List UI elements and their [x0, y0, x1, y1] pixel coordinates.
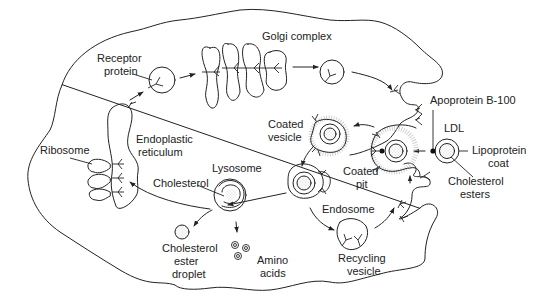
recycling-vesicle	[337, 219, 368, 250]
label-receptor-protein: Receptor protein	[97, 52, 145, 77]
label-amino-acids: Amino acids	[257, 254, 291, 279]
amino-acids	[232, 242, 250, 260]
label-cholesterol: Cholesterol	[153, 177, 209, 189]
ldl-particle	[430, 139, 473, 177]
secretory-vesicle	[320, 60, 344, 84]
label-cholesterol-esters: Cholesterol esters	[448, 175, 507, 200]
label-endoplastic-reticulum: Endoplastic reticulum	[136, 133, 196, 158]
receptor-protein-vesicle	[133, 67, 175, 93]
label-endosome: Endosome	[322, 203, 375, 215]
endosome	[288, 164, 330, 198]
label-cholesterol-ester-droplet: Cholesterol ester droplet	[162, 242, 221, 280]
label-golgi-complex: Golgi complex	[262, 30, 332, 42]
label-coated-vesicle: Coated vesicle	[268, 118, 307, 143]
golgi-complex	[202, 43, 287, 108]
label-apoprotein-b100: Apoprotein B-100	[430, 94, 516, 106]
label-lipoprotein-coat: Lipoprotein coat	[472, 144, 530, 169]
label-ldl: LDL	[444, 122, 464, 134]
coated-vesicle	[311, 114, 347, 156]
label-coated-pit: Coated pit	[343, 165, 382, 190]
cholesterol-ester-droplet	[175, 225, 189, 239]
ribosomes	[70, 158, 110, 201]
label-lysosome: Lysosome	[212, 162, 262, 174]
ldl-endocytosis-diagram: Receptor protein Golgi complex Apoprotei…	[0, 0, 550, 300]
endoplastic-reticulum	[108, 102, 139, 208]
label-ribosome: Ribosome	[40, 144, 90, 156]
